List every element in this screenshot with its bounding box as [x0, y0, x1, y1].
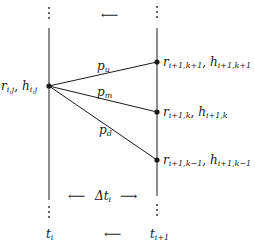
target-node-mid-label: ri+1,k, hi+1,k [163, 105, 228, 120]
right-top-ellipsis [156, 6, 158, 18]
right-time-label: ti+1 [150, 227, 169, 242]
target-node-down-label: ri+1,k−1, hi+1,k−1 [163, 153, 251, 168]
prob-up-label: pu [97, 59, 110, 74]
left-bottom-ellipsis [48, 206, 50, 218]
source-node-label: ri,j, hi,j [1, 79, 38, 94]
trinomial-tree-diagram: ⟵ ri,j, hi,j ri+1,k+1, hi+1,k+1 ri+1,k, … [0, 0, 255, 246]
target-node-down [154, 157, 159, 162]
interval-left-arrow: ⟵ [68, 189, 85, 203]
left-top-ellipsis [48, 7, 50, 19]
interval-label: Δti [94, 189, 112, 204]
prob-down-label: pd [99, 123, 112, 138]
top-left-arrow: ⟵ [101, 8, 118, 22]
left-time-label: ti [46, 227, 54, 242]
target-node-up-label: ri+1,k+1, hi+1,k+1 [163, 55, 251, 70]
interval-right-arrow: ⟶ [120, 189, 137, 203]
source-node [46, 83, 51, 88]
bottom-arrow: ⟵ [104, 227, 121, 241]
right-bottom-ellipsis [156, 204, 158, 216]
prob-mid-label: pm [97, 85, 113, 100]
target-node-up [154, 59, 159, 64]
target-node-mid [154, 109, 159, 114]
